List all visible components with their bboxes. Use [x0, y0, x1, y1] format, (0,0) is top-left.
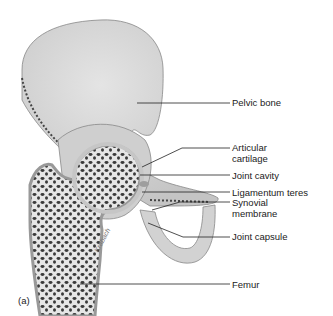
label-joint-cavity: Joint cavity	[232, 170, 279, 181]
label-joint-capsule: Joint capsule	[232, 231, 287, 242]
label-pelvic-bone: Pelvic bone	[232, 97, 281, 108]
panel-label: (a)	[18, 295, 30, 306]
femur-shape	[30, 144, 142, 316]
label-femur: Femur	[232, 279, 259, 290]
ligamentum-teres-shape	[139, 181, 149, 187]
hip-joint-illustration	[0, 0, 333, 316]
label-articular-cartilage-line2: cartilage	[232, 153, 268, 164]
label-synovial-membrane: Synovial membrane	[232, 197, 277, 219]
label-articular-cartilage-line1: Articular	[232, 142, 268, 153]
hip-joint-figure: Krabach Pelvic bone Articular cartilage …	[0, 0, 333, 316]
label-articular-cartilage: Articular cartilage	[232, 142, 268, 164]
label-synovial-membrane-line1: Synovial	[232, 197, 277, 208]
label-synovial-membrane-line2: membrane	[232, 208, 277, 219]
